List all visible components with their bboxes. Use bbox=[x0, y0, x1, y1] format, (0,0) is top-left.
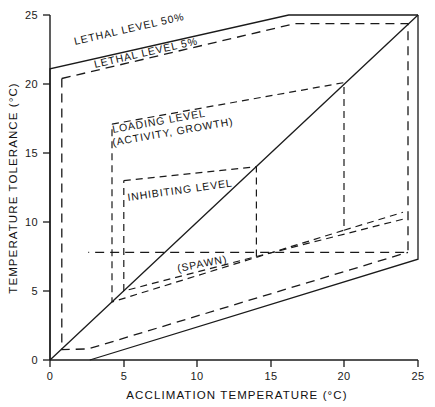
annotation-lethal-level-5: LETHAL LEVEL 5% bbox=[93, 34, 199, 70]
y-ticklabel-5: 5 bbox=[31, 285, 38, 297]
y-ticklabel-15: 15 bbox=[25, 147, 38, 159]
series-loading-level-lower-extension bbox=[344, 212, 403, 230]
x-ticklabel-5: 5 bbox=[121, 370, 128, 382]
x-axis-title: ACCLIMATION TEMPERATURE (°C) bbox=[126, 389, 347, 401]
y-axis-title: TEMPERATURE TOLERANCE (°C) bbox=[7, 82, 19, 293]
y-axis-ticks bbox=[43, 15, 50, 360]
series-lethal-50-lower-right bbox=[90, 15, 418, 360]
x-ticklabel-10: 10 bbox=[190, 370, 203, 382]
temperature-tolerance-polygon-chart: 25 20 15 10 5 0 0 5 10 15 20 25 ACCL bbox=[0, 0, 435, 407]
chart-annotations: LETHAL LEVEL 50% LETHAL LEVEL 5% LOADING… bbox=[73, 10, 234, 274]
y-ticklabel-10: 10 bbox=[25, 216, 38, 228]
x-axis-ticks bbox=[50, 360, 418, 367]
series-lethal-5-left-lower bbox=[62, 79, 408, 350]
x-ticklabel-0: 0 bbox=[47, 370, 54, 382]
series-spawn-lower-extension bbox=[256, 219, 403, 256]
y-ticklabel-20: 20 bbox=[25, 78, 38, 90]
x-ticklabel-20: 20 bbox=[337, 370, 350, 382]
figure-container: 25 20 15 10 5 0 0 5 10 15 20 25 ACCL bbox=[0, 0, 435, 407]
x-ticklabel-15: 15 bbox=[264, 370, 277, 382]
annotation-inhibiting-level: INHIBITING LEVEL bbox=[127, 176, 234, 203]
y-ticklabel-0: 0 bbox=[31, 354, 38, 366]
y-ticklabel-25: 25 bbox=[25, 9, 38, 21]
x-ticklabel-25: 25 bbox=[411, 370, 424, 382]
